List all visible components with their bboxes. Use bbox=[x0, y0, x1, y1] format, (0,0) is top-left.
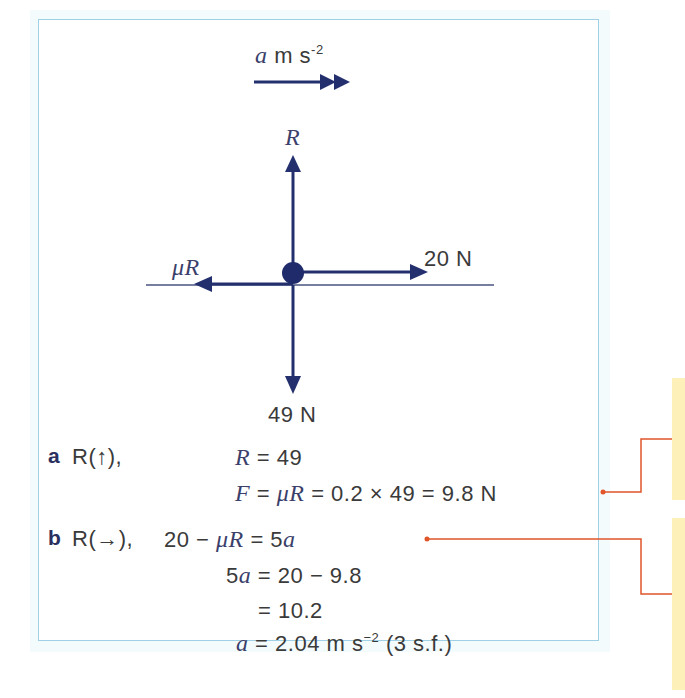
part-a-label: a bbox=[48, 444, 60, 468]
var-a: a bbox=[239, 562, 252, 588]
unit-exponent: −2 bbox=[363, 630, 379, 645]
annotation-connector-a bbox=[601, 439, 673, 495]
var-a: a bbox=[236, 630, 249, 656]
applied-force-arrow-icon bbox=[293, 264, 428, 280]
force-label-up: R bbox=[285, 124, 300, 151]
force-label-right: 20 N bbox=[424, 246, 472, 272]
force-label-down: 49 N bbox=[268, 402, 316, 428]
part-b-line-4: a = 2.04 m s−2 (3 s.f.) bbox=[236, 630, 452, 657]
equation-rhs: = 20 − 9.8 bbox=[251, 563, 362, 588]
equation-pre: 5 bbox=[226, 563, 239, 588]
force-diagram bbox=[0, 0, 685, 698]
var-R: R bbox=[235, 444, 250, 470]
var-muR: μR bbox=[216, 526, 244, 552]
part-a-line-2: F = μR = 0.2 × 49 = 9.8 N bbox=[235, 480, 497, 507]
part-b-line-1: 20 − μR = 5a bbox=[164, 526, 296, 553]
sig-figs-note: (3 s.f.) bbox=[379, 631, 452, 656]
normal-reaction-arrow-icon bbox=[285, 155, 301, 275]
equation-rhs: = 0.2 × 49 = 9.8 N bbox=[311, 481, 497, 506]
equation-rhs: = 49 bbox=[257, 445, 302, 470]
acceleration-label: a m s-2 bbox=[255, 42, 324, 69]
force-label-left: μR bbox=[172, 254, 200, 281]
annotation-connector-b bbox=[425, 537, 673, 595]
part-b-resolve: R(→), bbox=[72, 526, 133, 552]
part-b-line-3: = 10.2 bbox=[258, 598, 323, 624]
var-muR: μR bbox=[277, 480, 305, 506]
friction-arrow-icon bbox=[194, 276, 293, 292]
particle-dot-icon bbox=[282, 262, 304, 284]
weight-arrow-icon bbox=[285, 285, 301, 394]
part-b-label: b bbox=[48, 526, 61, 550]
equation-rhs: = 2.04 m s bbox=[249, 631, 364, 656]
part-a-line-1: R = 49 bbox=[235, 444, 302, 471]
acceleration-var: a bbox=[255, 42, 268, 68]
acceleration-unit: m s bbox=[274, 43, 311, 68]
var-F: F bbox=[235, 480, 250, 506]
acceleration-exponent: -2 bbox=[311, 42, 324, 57]
var-a: a bbox=[283, 526, 296, 552]
equation-mid: = 5 bbox=[244, 527, 283, 552]
acceleration-arrow-icon bbox=[254, 74, 350, 90]
equation-rhs: = 10.2 bbox=[258, 598, 323, 623]
part-a-resolve: R(↑), bbox=[72, 444, 122, 470]
equation-pre: 20 − bbox=[164, 527, 216, 552]
equals-sign: = bbox=[257, 481, 270, 506]
part-b-line-2: 5a = 20 − 9.8 bbox=[226, 562, 362, 589]
